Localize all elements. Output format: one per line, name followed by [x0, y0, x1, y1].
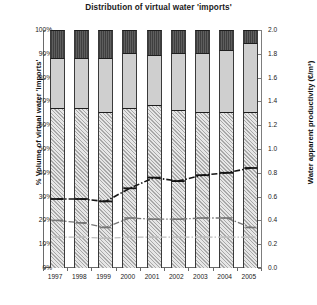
y-tick-label-left: 10%	[16, 240, 52, 247]
bar-segment-bottom	[195, 113, 210, 268]
bar-segment-middle	[50, 59, 65, 109]
x-tick-mark	[164, 268, 165, 271]
bar-segment-middle	[195, 54, 210, 114]
y-tick-mark-left	[43, 78, 46, 79]
y-tick-mark-right	[258, 149, 261, 150]
y-tick-mark-right	[258, 125, 261, 126]
bar-2000[interactable]	[122, 30, 137, 268]
y-tick-label-right: 0.4	[268, 216, 298, 223]
bar-segment-bottom	[74, 109, 89, 268]
y-tick-label-left: 100%	[16, 26, 52, 33]
bar-2002[interactable]	[171, 30, 186, 268]
bar-segment-bottom	[147, 106, 162, 268]
y-tick-mark-left	[43, 125, 46, 126]
y-tick-label-right: 1.8	[268, 50, 298, 57]
y-axis-title-right: Water apparent productivity (€/m³)	[306, 23, 315, 223]
bar-segment-top	[122, 30, 137, 54]
bar-2005[interactable]	[243, 30, 258, 268]
bar-segment-bottom	[171, 111, 186, 268]
bar-segment-middle	[171, 54, 186, 111]
x-tick-mark	[237, 268, 238, 271]
y-tick-mark-left	[43, 244, 46, 245]
bar-segment-bottom	[50, 109, 65, 268]
y-tick-mark-right	[258, 54, 261, 55]
bar-segment-top	[98, 30, 113, 59]
x-tick-mark	[67, 268, 68, 271]
bar-1999[interactable]	[98, 30, 113, 268]
y-tick-label-left: 0%	[16, 264, 52, 271]
bar-segment-middle	[122, 54, 137, 109]
y-tick-label-right: 0.2	[268, 240, 298, 247]
y-tick-label-left: 30%	[16, 193, 52, 200]
bar-segment-bottom	[243, 113, 258, 268]
y-tick-label-right: 2.0	[268, 26, 298, 33]
bar-2003[interactable]	[195, 30, 210, 268]
bar-segment-top	[74, 30, 89, 59]
bar-2004[interactable]	[219, 30, 234, 268]
x-tick-mark	[213, 268, 214, 271]
y-tick-mark-left	[43, 101, 46, 102]
bar-segment-top	[243, 30, 258, 44]
bar-segment-top	[195, 30, 210, 54]
y-tick-label-left: 20%	[16, 216, 52, 223]
y-tick-mark-left	[43, 220, 46, 221]
chart-root: Distribution of virtual water 'imports' …	[0, 0, 317, 305]
x-tick-mark	[261, 268, 262, 271]
x-tick-mark	[140, 268, 141, 271]
y-tick-label-right: 0.6	[268, 193, 298, 200]
y-tick-mark-left	[43, 197, 46, 198]
y-tick-label-left: 50%	[16, 145, 52, 152]
bar-segment-top	[50, 30, 65, 59]
x-axis-label-2005: 2005	[234, 273, 264, 280]
y-tick-mark-right	[258, 78, 261, 79]
y-tick-mark-left	[43, 149, 46, 150]
y-tick-mark-left	[43, 173, 46, 174]
y-tick-label-right: 1.4	[268, 97, 298, 104]
y-tick-label-left: 60%	[16, 121, 52, 128]
y-tick-mark-right	[258, 173, 261, 174]
bar-segment-middle	[98, 59, 113, 114]
chart-title: Distribution of virtual water 'imports'	[0, 3, 317, 12]
y-tick-mark-left	[43, 54, 46, 55]
bar-1997[interactable]	[50, 30, 65, 268]
y-tick-mark-right	[258, 220, 261, 221]
y-tick-mark-right	[258, 244, 261, 245]
bar-segment-middle	[147, 56, 162, 106]
y-tick-label-right: 0.0	[268, 264, 298, 271]
y-tick-label-left: 70%	[16, 97, 52, 104]
y-tick-mark-right	[258, 197, 261, 198]
y-tick-mark-right	[258, 101, 261, 102]
y-tick-label-left: 90%	[16, 50, 52, 57]
bar-segment-middle	[74, 59, 89, 109]
bar-segment-middle	[219, 51, 234, 113]
bar-segment-bottom	[98, 113, 113, 268]
bar-segment-bottom	[219, 113, 234, 268]
bar-2001[interactable]	[147, 30, 162, 268]
y-tick-label-right: 1.0	[268, 145, 298, 152]
y-tick-label-right: 1.6	[268, 74, 298, 81]
y-tick-label-left: 80%	[16, 74, 52, 81]
bar-segment-top	[171, 30, 186, 54]
bar-1998[interactable]	[74, 30, 89, 268]
bar-segment-top	[219, 30, 234, 51]
bar-segment-middle	[243, 44, 258, 113]
bar-segment-bottom	[122, 109, 137, 268]
right-axis-line	[261, 30, 262, 269]
x-tick-mark	[116, 268, 117, 271]
x-tick-mark	[188, 268, 189, 271]
y-tick-label-right: 0.8	[268, 169, 298, 176]
bar-segment-top	[147, 30, 162, 56]
x-tick-mark	[91, 268, 92, 271]
x-tick-mark	[43, 268, 44, 271]
y-tick-label-left: 40%	[16, 169, 52, 176]
y-tick-mark-right	[258, 30, 261, 31]
y-tick-mark-left	[43, 30, 46, 31]
y-tick-label-right: 1.2	[268, 121, 298, 128]
